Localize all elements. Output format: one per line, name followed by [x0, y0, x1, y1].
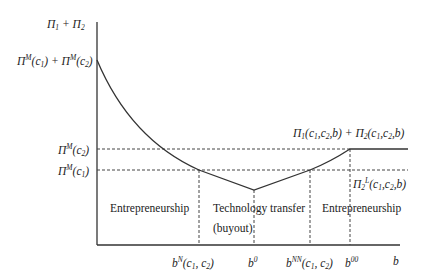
x-tick-b0: b0	[248, 256, 258, 270]
x-axis-title: b	[393, 256, 399, 268]
x-tick-b00: b00	[345, 256, 358, 270]
y-tick-pim-c1: ΠM(c1)	[58, 164, 89, 179]
region-technology-transfer: Technology transfer	[213, 203, 305, 215]
x-tick-bN: bN(c1, c2)	[172, 256, 214, 271]
x-tick-bNN: bNN(c1, c2)	[286, 256, 333, 271]
curve-label-sum: Π1(c1,c2,b) + Π2(c1,c2,b)	[293, 128, 404, 141]
region-entrepreneurship-right: Entrepreneurship	[322, 203, 401, 215]
region-buyout: (buyout)	[213, 223, 253, 235]
y-axis-title: Π1 + Π2	[47, 19, 85, 32]
y-tick-sum-monopoly: ΠM(c1) + ΠM(c2)	[17, 54, 93, 69]
region-entrepreneurship-left: Entrepreneurship	[110, 203, 189, 215]
y-tick-pim-c2: ΠM(c2)	[58, 143, 89, 158]
curve-label-pi2L: Π2L(c1,c2,b)	[353, 177, 406, 192]
